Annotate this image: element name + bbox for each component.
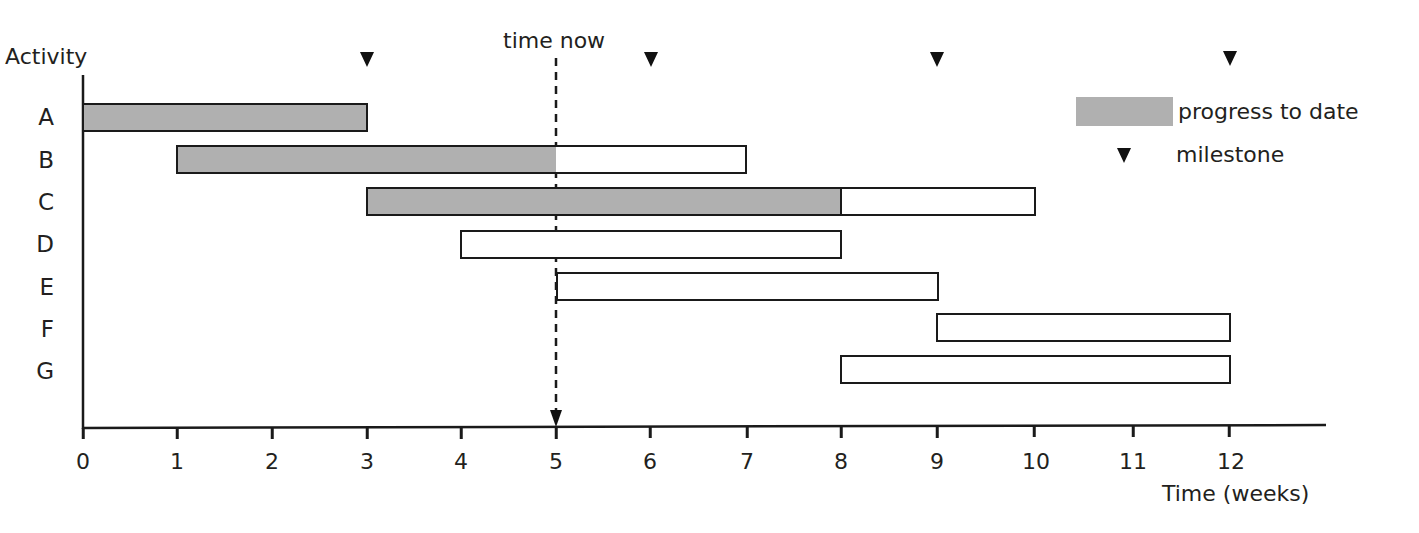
bar-activity-f — [936, 313, 1231, 342]
row-label-f: F — [24, 318, 54, 341]
y-axis-label: Activity — [5, 46, 87, 68]
x-tick-label: 6 — [643, 451, 657, 473]
row-label-c: C — [24, 191, 54, 214]
x-tick-label: 0 — [76, 451, 90, 473]
x-tick-label: 9 — [930, 451, 944, 473]
x-axis-label: Time (weeks) — [1162, 483, 1309, 505]
bar-activity-g — [840, 355, 1231, 384]
row-label-a: A — [24, 106, 54, 129]
x-tick — [1132, 426, 1135, 437]
x-tick — [1228, 426, 1231, 437]
progress-fill — [178, 147, 556, 172]
x-tick — [555, 428, 558, 439]
bar-activity-b — [176, 145, 747, 174]
bar-activity-d — [460, 230, 842, 259]
row-label-e: E — [24, 276, 54, 299]
x-tick-label: 5 — [549, 451, 563, 473]
x-tick-label: 12 — [1217, 451, 1245, 473]
milestone-icon — [360, 52, 374, 67]
x-tick-label: 4 — [454, 451, 468, 473]
x-tick — [746, 427, 749, 438]
milestone-icon — [644, 52, 658, 67]
x-tick-label: 3 — [360, 451, 374, 473]
x-tick-label: 2 — [265, 451, 279, 473]
x-tick — [1033, 426, 1036, 437]
legend-progress-swatch — [1076, 97, 1173, 126]
row-label-d: D — [24, 233, 54, 256]
x-tick — [271, 428, 274, 439]
chart-axes — [0, 0, 1419, 533]
row-label-g: G — [24, 360, 54, 383]
x-tick-label: 7 — [740, 451, 754, 473]
x-tick-label: 8 — [834, 451, 848, 473]
time-now-arrow-icon — [550, 410, 562, 427]
x-tick — [936, 427, 939, 438]
legend-progress-label: progress to date — [1178, 101, 1359, 123]
time-now-label: time now — [503, 30, 605, 52]
x-tick — [649, 427, 652, 438]
x-tick — [82, 428, 85, 439]
milestone-icon — [1223, 51, 1237, 66]
legend-milestone-icon — [1117, 148, 1131, 163]
x-tick-label: 11 — [1119, 451, 1147, 473]
bar-activity-c — [366, 187, 1036, 216]
bar-activity-a — [82, 103, 368, 132]
milestone-icon — [930, 52, 944, 67]
bar-activity-e — [556, 272, 939, 301]
progress-fill — [368, 189, 840, 214]
legend-milestone-label: milestone — [1176, 144, 1284, 166]
x-tick-label: 1 — [170, 451, 184, 473]
x-tick-label: 10 — [1022, 451, 1050, 473]
x-tick — [460, 428, 463, 439]
x-tick — [840, 427, 843, 438]
x-tick — [176, 428, 179, 439]
x-tick — [366, 428, 369, 439]
row-label-b: B — [24, 149, 54, 172]
